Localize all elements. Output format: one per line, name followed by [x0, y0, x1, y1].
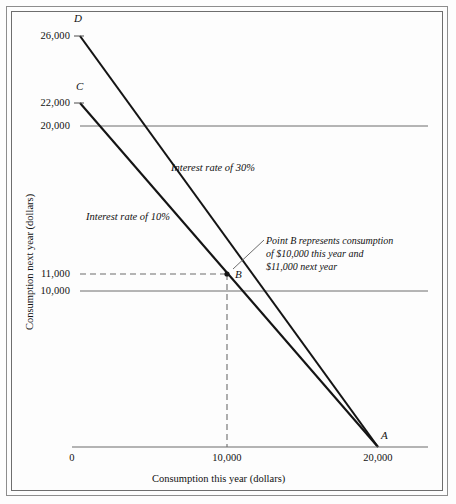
curve-label-interest-10: Interest rate of 10%: [86, 211, 170, 222]
point-label-d: D: [74, 12, 82, 24]
y-tick-label-20000: 20,000: [8, 120, 70, 131]
data-point-b: [224, 271, 229, 276]
x-axis-title: Consumption this year (dollars): [152, 473, 285, 484]
curve-label-interest-30: Interest rate of 30%: [171, 162, 255, 173]
x-tick-label-0: 0: [52, 452, 92, 463]
y-tick-label-10000: 10,000: [8, 285, 70, 296]
y-tick-label-26000: 26,000: [8, 30, 70, 41]
point-label-c: C: [76, 80, 83, 92]
y-tick-label-22000: 22,000: [8, 97, 70, 108]
y-axis-title: Consumption next year (dollars): [24, 194, 35, 330]
figure-container: 26,000 22,000 20,000 11,000 10,000 0 10,…: [0, 0, 456, 504]
point-label-a: A: [381, 429, 388, 441]
annotation-line-1: Point B represents consumption: [266, 234, 444, 247]
annotation-line-3: $11,000 next year: [266, 260, 444, 273]
point-b-annotation: Point B represents consumption of $10,00…: [266, 234, 444, 274]
x-tick-label-20000: 20,000: [347, 452, 409, 463]
annotation-line-2: of $10,000 this year and: [266, 247, 444, 260]
x-tick-label-10000: 10,000: [196, 452, 258, 463]
y-tick-label-11000: 11,000: [8, 268, 70, 279]
point-label-b: B: [235, 268, 242, 280]
